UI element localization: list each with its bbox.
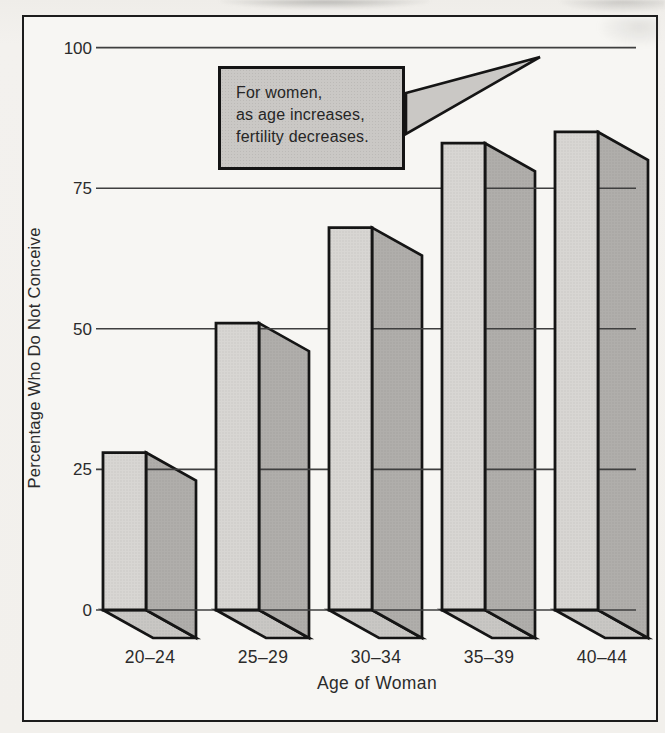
halftone-overlay bbox=[329, 228, 372, 610]
halftone-overlay bbox=[372, 228, 422, 638]
callout-line: fertility decreases. bbox=[236, 126, 394, 148]
x-category-label-30-34: 30–34 bbox=[351, 647, 402, 667]
halftone-overlay bbox=[485, 143, 535, 638]
y-tick-label-25: 25 bbox=[73, 460, 92, 479]
figure-page: 0255075100 20–2425–2930–3435–3940–44 For… bbox=[0, 0, 665, 733]
x-axis-title: Age of Woman bbox=[277, 673, 477, 695]
x-category-label-35-39: 35–39 bbox=[464, 647, 515, 667]
y-tick-label-100: 100 bbox=[64, 39, 92, 58]
y-axis-title: Percentage Who Do Not Conceive bbox=[25, 188, 47, 528]
callout-line: as age increases, bbox=[236, 104, 394, 126]
halftone-overlay bbox=[555, 132, 598, 610]
y-tick-label-50: 50 bbox=[73, 320, 92, 339]
halftone-overlay bbox=[442, 143, 485, 610]
x-category-label-20-24: 20–24 bbox=[125, 647, 176, 667]
callout-pointer bbox=[406, 57, 540, 134]
y-tick-label-0: 0 bbox=[83, 601, 92, 620]
halftone-overlay bbox=[103, 453, 146, 610]
x-category-label-40-44: 40–44 bbox=[577, 647, 628, 667]
callout-line: For women, bbox=[236, 82, 394, 104]
halftone-overlay bbox=[216, 323, 259, 610]
halftone-overlay bbox=[259, 323, 309, 638]
halftone-overlay bbox=[598, 132, 648, 638]
y-tick-label-75: 75 bbox=[73, 179, 92, 198]
callout: For women, as age increases, fertility d… bbox=[218, 66, 405, 170]
x-category-label-25-29: 25–29 bbox=[238, 647, 289, 667]
